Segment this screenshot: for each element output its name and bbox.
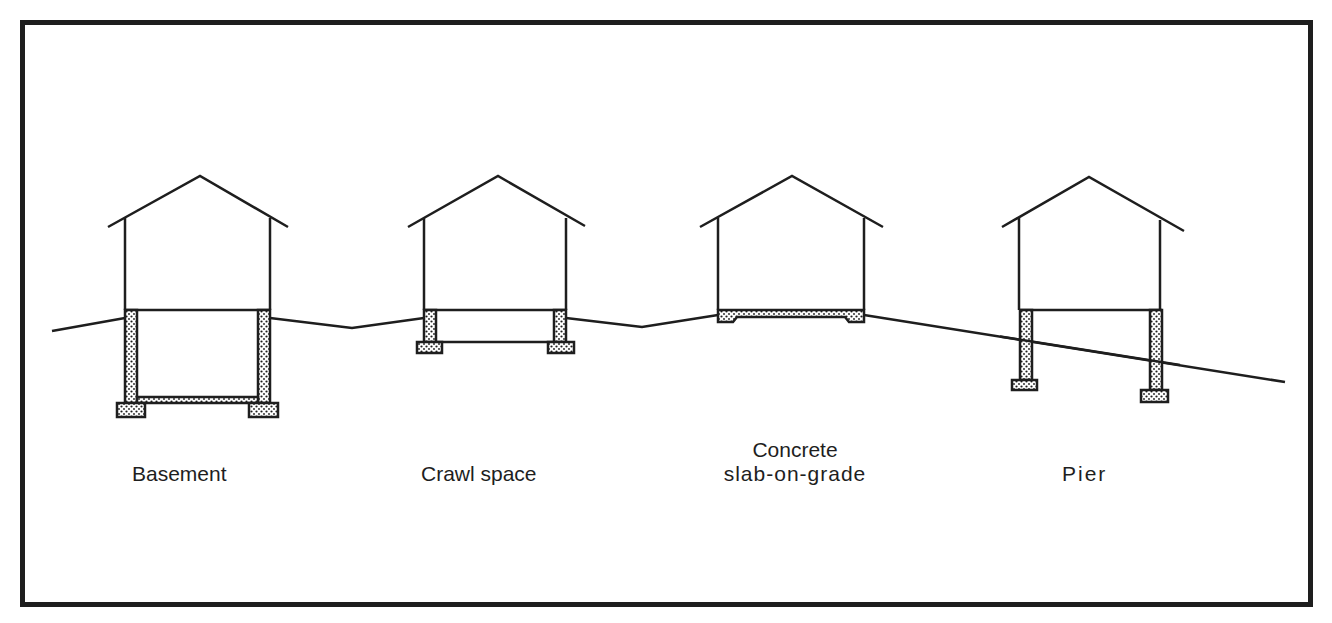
pier-footing-right [1141,390,1168,402]
roof [700,176,883,227]
roof [108,176,288,227]
label-slab-on-grade: Concrete slab-on-grade [705,438,885,486]
ground-line [52,318,125,331]
footing-right [249,403,278,417]
pier-right [1150,310,1162,390]
basement-house [108,176,288,417]
label-slab-line2: slab-on-grade [705,462,885,486]
concrete-slab [718,310,864,322]
pier-house [1002,177,1184,402]
foundation-wall-right [554,310,566,342]
footing-right [548,342,574,353]
label-crawl-space: Crawl space [421,462,537,486]
basement-slab [137,397,258,403]
footing-left [117,403,145,417]
pier-footing-left [1012,380,1037,390]
footing-left [417,342,442,353]
foundation-wall-left [125,310,137,403]
ground-line [566,315,718,327]
crawl-space-house [408,176,585,353]
roof [1002,177,1184,231]
foundation-types-diagram [0,0,1332,623]
label-pier: Pier [1062,462,1107,486]
foundation-wall-left [424,310,436,342]
roof [408,176,585,227]
pier-left [1020,310,1032,380]
label-basement: Basement [132,462,227,486]
label-slab-line1: Concrete [705,438,885,462]
frame-border [23,23,1311,605]
slab-house [700,176,883,322]
foundation-wall-right [258,310,270,403]
ground-line [270,318,424,328]
